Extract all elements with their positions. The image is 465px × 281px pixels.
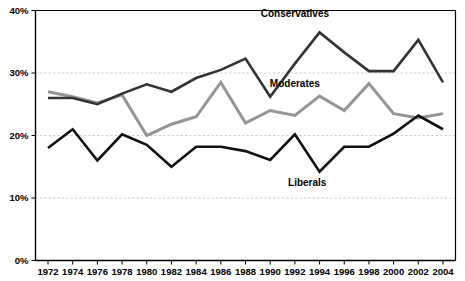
x-axis-tick-labels: 1972197419761978198019821984198619881990… — [37, 266, 454, 277]
data-series-group — [48, 32, 443, 171]
x-axis-tick-label: 1990 — [260, 266, 281, 277]
x-axis-tick-label: 1974 — [62, 266, 84, 277]
y-axis-tick-label: 30% — [9, 67, 29, 78]
y-axis-tick-label: 40% — [9, 5, 29, 16]
y-axis-tick-label: 0% — [15, 255, 29, 266]
series-line-conservatives — [48, 32, 443, 104]
series-annotation-moderates: Moderates — [270, 78, 320, 89]
y-axis-tick-labels: 0%10%20%30%40% — [9, 5, 29, 266]
series-annotation-liberals: Liberals — [288, 177, 327, 188]
x-axis-tick-label: 1978 — [111, 266, 132, 277]
x-axis-tick-label: 1986 — [210, 266, 231, 277]
x-axis-tick-label: 1998 — [358, 266, 379, 277]
x-axis-tick-label: 1992 — [284, 266, 305, 277]
series-line-moderates — [48, 82, 443, 135]
x-axis-tick-label: 2002 — [408, 266, 429, 277]
x-axis-tick-label: 1980 — [136, 266, 157, 277]
x-axis-tick-label: 1972 — [37, 266, 58, 277]
line-chart-figure: 0%10%20%30%40% 1972197419761978198019821… — [0, 0, 465, 281]
x-axis-tick-label: 1982 — [161, 266, 182, 277]
x-axis-tick-label: 1988 — [235, 266, 256, 277]
chart-canvas: 0%10%20%30%40% 1972197419761978198019821… — [0, 0, 465, 281]
y-axis-tick-label: 20% — [9, 130, 29, 141]
x-axis-tick-label: 1984 — [186, 266, 208, 277]
x-axis-tick-label: 1976 — [87, 266, 108, 277]
x-axis-tick-label: 1996 — [334, 266, 355, 277]
y-axis-tick-label: 10% — [9, 192, 29, 203]
x-axis-tick-label: 2004 — [432, 266, 454, 277]
series-annotation-conservatives: Conservatives — [261, 8, 330, 19]
x-axis-tick-label: 2000 — [383, 266, 404, 277]
x-axis-tick-label: 1994 — [309, 266, 331, 277]
